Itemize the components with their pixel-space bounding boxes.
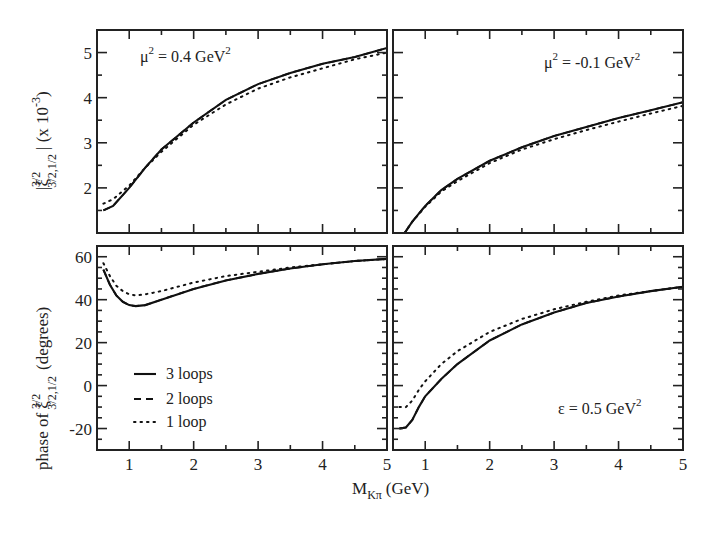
series-3-loops (103, 259, 387, 306)
x-tick-label: 2 (485, 455, 494, 474)
y-tick-label: 5 (84, 44, 93, 63)
y-tick-label: 4 (84, 89, 93, 108)
annotation-mu-minus-0.1: μ2 = -0.1 GeV2 (544, 50, 640, 72)
x-tick-label: 3 (550, 455, 559, 474)
x-tick-label: 5 (383, 455, 392, 474)
figure: 234512345-20020406012345 |ξ3/23/2,1/2| (… (0, 0, 709, 534)
panel-bottom-right: 12345 (393, 246, 687, 474)
y-axis-label-magnitude: |ξ3/23/2,1/2| (x 10-3) (29, 91, 59, 190)
series-1-loop (405, 106, 683, 233)
series-2-loops (405, 102, 683, 233)
y-tick-label: 3 (84, 134, 93, 153)
annotation-mu-0.4: μ2 = 0.4 GeV2 (140, 44, 231, 66)
y-tick-label: 0 (84, 377, 93, 396)
x-axis-label: MKπ(GeV) (352, 479, 429, 502)
y-tick-label: 2 (84, 179, 93, 198)
x-tick-label: 3 (254, 455, 263, 474)
series-3-loops (103, 48, 387, 210)
legend-label-1-loop: 1 loop (166, 413, 206, 431)
y-tick-label: -20 (69, 420, 92, 439)
y-axis-label-phase: phase of ξ3/23/2,1/2(degrees) (29, 307, 59, 470)
y-tick-label: 20 (75, 334, 92, 353)
series-2-loops (103, 48, 387, 210)
series-3-loops (405, 102, 683, 233)
legend-label-2-loops: 2 loops (166, 390, 213, 408)
x-tick-label: 1 (421, 455, 430, 474)
y-tick-label: 40 (75, 291, 92, 310)
plot-frame (393, 246, 683, 450)
x-tick-label: 1 (125, 455, 134, 474)
series-2-loops (103, 259, 387, 306)
panel-bottom-left: 12345-200204060 (69, 246, 391, 474)
x-tick-label: 4 (318, 455, 327, 474)
annotation-epsilon-0.5: ε = 0.5 GeV2 (558, 396, 641, 417)
series-1-loop (399, 287, 683, 407)
legend-label-3-loops: 3 loops (166, 365, 213, 383)
legend: 3 loops 2 loops 1 loop (134, 365, 213, 431)
panel-top-left: 2345 (84, 30, 388, 233)
y-tick-label: 60 (75, 248, 92, 267)
x-tick-label: 4 (614, 455, 623, 474)
series-1-loop (103, 53, 387, 204)
x-tick-label: 5 (679, 455, 688, 474)
x-tick-label: 2 (189, 455, 198, 474)
